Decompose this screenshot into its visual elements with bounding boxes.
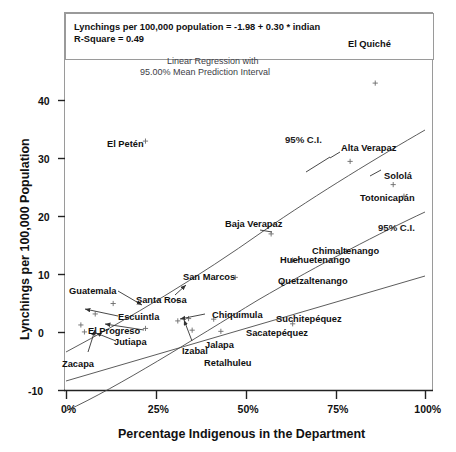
data-point	[373, 81, 378, 86]
point-label: Escuintla	[118, 313, 159, 322]
point-label: Retalhuleu	[204, 359, 252, 368]
point-label: Quetzaltenango	[278, 277, 348, 286]
point-label: Huehuetenango	[280, 256, 350, 265]
point-label: Sacatepéquez	[246, 329, 308, 338]
data-point	[391, 182, 396, 187]
data-point	[82, 329, 87, 334]
point-label: Santa Rosa	[136, 296, 187, 305]
regression-annotation-line2: 95.00% Mean Prediction Interval	[140, 67, 270, 78]
data-point	[218, 329, 223, 334]
point-label: San Marcos	[183, 273, 235, 282]
x-axis-title: Percentage Indigenous in the Department	[118, 427, 365, 441]
ci-label-upper: 95% C.I.	[285, 134, 322, 145]
regression-equation: Lynchings per 100,000 population = -1.98…	[74, 22, 320, 34]
x-tick-label: 25%	[148, 403, 169, 415]
point-label: El Petén	[107, 140, 144, 149]
point-label: Alta Verapaz	[341, 144, 396, 153]
point-label: Guatemala	[69, 287, 117, 296]
point-label: Suchitepéquez	[276, 315, 342, 324]
regression-annotation-line1: Linear Regression with	[167, 56, 259, 67]
y-tick-label: 0	[38, 327, 44, 339]
ci-label-lower: 95% C.I.	[378, 222, 415, 233]
data-point	[175, 318, 180, 323]
point-label: Baja Verapaz	[225, 220, 282, 229]
x-axis-ticks	[64, 390, 433, 399]
x-tick-label: 0%	[61, 403, 76, 415]
point-label: Zacapa	[62, 360, 94, 369]
y-tick-label: 30	[38, 153, 50, 165]
data-point	[348, 159, 353, 164]
scatter-chart: Lynchings per 100,000 population = -1.98…	[0, 0, 456, 452]
y-tick-label: 10	[38, 269, 50, 281]
x-tick-label: 100%	[414, 403, 441, 415]
y-axis-title: Lynchings per 100,000 Population	[18, 138, 32, 340]
data-point	[111, 301, 116, 306]
data-point	[78, 322, 83, 327]
point-label: Sololá	[384, 172, 412, 181]
x-tick-label: 50%	[238, 403, 259, 415]
point-label: Totonicapán	[360, 194, 415, 203]
y-axis-ticks	[58, 101, 65, 391]
point-label: El Progreso	[88, 327, 140, 336]
point-label: Jutiapa	[114, 338, 147, 347]
r-square-value: R-Square = 0.49	[74, 34, 144, 46]
y-tick-label: 20	[38, 211, 50, 223]
point-label: Izabal	[182, 347, 208, 356]
point-label: El Quiché	[348, 40, 391, 49]
data-point	[93, 311, 98, 316]
point-label: Jalapa	[205, 341, 234, 350]
point-label: Chiquimula	[212, 311, 263, 320]
data-point	[190, 328, 195, 333]
y-tick-label: -10	[28, 385, 43, 397]
x-tick-label: 75%	[327, 403, 348, 415]
y-tick-label: 40	[38, 95, 50, 107]
